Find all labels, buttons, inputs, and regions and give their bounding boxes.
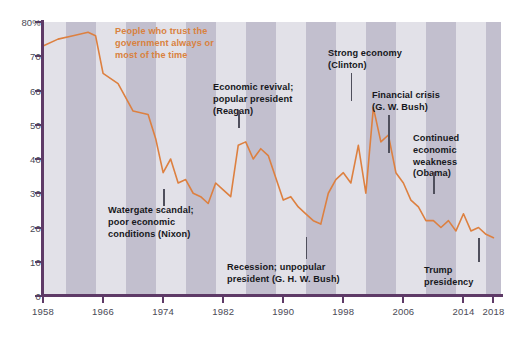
annotation-watergate: Watergate scandal; poor economic conditi… — [108, 205, 194, 240]
leader-line-reagan — [238, 110, 239, 128]
annotation-reagan: Economic revival; popular president (Rea… — [213, 82, 293, 117]
x-axis-tick-label: 1966 — [92, 306, 114, 317]
annotation-headline: People who trust the government always o… — [115, 26, 214, 61]
y-axis-tick-label: 10 — [7, 257, 41, 268]
x-axis-tick — [342, 297, 344, 303]
annotation-trump: Trump presidency — [424, 265, 474, 289]
annotation-gw-bush: Financial crisis (G. W. Bush) — [372, 90, 440, 114]
x-axis-tick — [102, 297, 104, 303]
leader-line-clinton — [351, 73, 352, 101]
y-axis-tick-label: 80% — [7, 17, 41, 28]
x-axis-tick-label: 2014 — [452, 306, 474, 317]
x-axis-tick-label: 2006 — [392, 306, 414, 317]
leader-line-watergate — [163, 189, 164, 206]
x-axis-tick-label: 1998 — [332, 306, 354, 317]
x-axis-tick-label: 1982 — [212, 306, 234, 317]
x-axis-tick — [402, 297, 404, 303]
y-axis-tick-label: 0 — [7, 291, 41, 302]
y-axis — [41, 20, 44, 297]
x-axis-tick — [162, 297, 164, 303]
x-axis-tick-label: 1990 — [272, 306, 294, 317]
y-axis-tick-label: 20 — [7, 223, 41, 234]
x-axis-tick — [42, 297, 44, 303]
x-axis-tick — [462, 297, 464, 303]
y-axis-tick-label: 50 — [7, 120, 41, 131]
y-axis-tick-label: 30 — [7, 188, 41, 199]
x-axis-tick-label: 1974 — [152, 306, 174, 317]
leader-line-obama — [433, 172, 434, 194]
x-axis-tick — [222, 297, 224, 303]
x-axis-tick-label: 2018 — [483, 306, 505, 317]
x-axis-tick — [282, 297, 284, 303]
annotation-clinton: Strong economy (Clinton) — [328, 48, 402, 72]
annotation-obama: Continued economic weakness (Obama) — [413, 133, 459, 180]
x-axis — [41, 294, 503, 297]
annotation-ghw-bush: Recession; unpopular president (G. H. W.… — [227, 262, 340, 286]
leader-line-trump — [478, 238, 479, 262]
chart-canvas: 01020304050607080% 195819661974198219901… — [0, 0, 510, 341]
y-axis-tick-label: 60 — [7, 86, 41, 97]
x-axis-tick-label: 1958 — [32, 306, 54, 317]
x-axis-tick — [492, 297, 494, 303]
y-axis-tick-label: 70 — [7, 51, 41, 62]
leader-line-ghw-bush — [306, 237, 307, 259]
y-axis-tick-label: 40 — [7, 154, 41, 165]
leader-line-gw-bush — [388, 115, 389, 153]
